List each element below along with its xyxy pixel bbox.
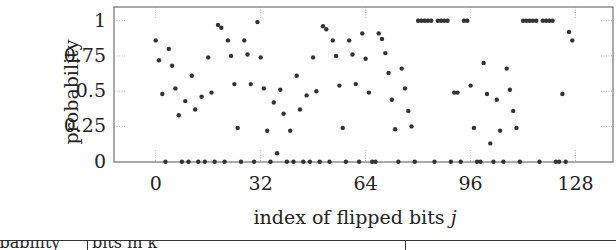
data-point [275, 151, 279, 155]
data-point [314, 89, 318, 93]
x-tick-labels: 0326496128 [150, 172, 594, 194]
data-point [380, 37, 384, 41]
tick-marks [114, 7, 613, 162]
data-point [413, 160, 417, 164]
data-point [255, 20, 259, 24]
data-point [331, 38, 335, 42]
data-point [357, 160, 361, 164]
data-point [239, 160, 243, 164]
data-point [501, 160, 505, 164]
data-point [321, 24, 325, 28]
data-point [455, 90, 459, 94]
data-point [327, 160, 331, 164]
data-point [373, 160, 377, 164]
table-column-separator [87, 241, 88, 250]
data-point [203, 160, 207, 164]
data-point [262, 86, 266, 90]
data-point [478, 160, 482, 164]
data-point [216, 23, 220, 27]
table-header-probability: probability [0, 240, 60, 244]
data-point [390, 98, 394, 102]
data-point [324, 27, 328, 31]
data-point [173, 86, 177, 90]
data-point [196, 160, 200, 164]
data-point [350, 52, 354, 56]
data-point [222, 160, 226, 164]
data-point [485, 92, 489, 96]
data-point [206, 55, 210, 59]
data-point [177, 113, 181, 117]
data-point [505, 66, 509, 70]
data-point [537, 160, 541, 164]
data-point [236, 126, 240, 130]
data-point [308, 160, 312, 164]
data-point [291, 160, 295, 164]
table-column-separator [405, 241, 406, 250]
data-point [386, 71, 390, 75]
data-point [567, 30, 571, 34]
data-point [318, 160, 322, 164]
x-tick-label: 64 [354, 172, 378, 194]
data-point [170, 64, 174, 68]
data-point [396, 160, 400, 164]
data-point [459, 160, 463, 164]
data-point [511, 109, 515, 113]
data-point [514, 126, 518, 130]
data-point [472, 126, 476, 130]
data-point [180, 160, 184, 164]
data-point [232, 82, 236, 86]
data-point [400, 66, 404, 70]
y-tick-label: 1 [94, 9, 106, 31]
data-point [534, 19, 538, 23]
data-point [226, 38, 230, 42]
data-point [449, 160, 453, 164]
data-point [242, 38, 246, 42]
data-point [495, 98, 499, 102]
data-point [491, 160, 495, 164]
x-axis-label: index of flipped bits j [253, 206, 456, 228]
data-point [245, 52, 249, 56]
x-tick-label: 32 [249, 172, 273, 194]
data-point [295, 74, 299, 78]
data-point [186, 160, 190, 164]
data-point [354, 82, 358, 86]
data-point [311, 55, 315, 59]
data-point [334, 54, 338, 58]
table-header-bits: bits in k [92, 240, 157, 244]
data-point [498, 129, 502, 133]
data-point [259, 55, 263, 59]
data-point [560, 92, 564, 96]
data-point [393, 127, 397, 131]
data-point [360, 31, 364, 35]
data-point [281, 112, 285, 116]
plot-frame [114, 7, 613, 162]
data-point [344, 160, 348, 164]
data-point [367, 90, 371, 94]
data-point [298, 107, 302, 111]
data-point [406, 109, 410, 113]
data-point [468, 83, 472, 87]
data-point [160, 92, 164, 96]
data-point [301, 160, 305, 164]
data-point [285, 160, 289, 164]
data-point [209, 90, 213, 94]
data-point [249, 82, 253, 86]
data-point [252, 160, 256, 164]
data-point [383, 51, 387, 55]
data-point [508, 88, 512, 92]
data-point [272, 100, 276, 104]
data-point [288, 129, 292, 133]
x-tick-label: 128 [557, 172, 593, 194]
data-point [550, 19, 554, 23]
scatter-chart: 00.250.50.751 0326496128 probability ind… [0, 0, 616, 240]
data-point [432, 160, 436, 164]
data-point [465, 19, 469, 23]
data-point [363, 57, 367, 61]
data-point [377, 31, 381, 35]
data-point [199, 95, 203, 99]
data-point [193, 107, 197, 111]
data-point [445, 19, 449, 23]
data-point [183, 99, 187, 103]
data-point [157, 58, 161, 62]
data-point [347, 38, 351, 42]
